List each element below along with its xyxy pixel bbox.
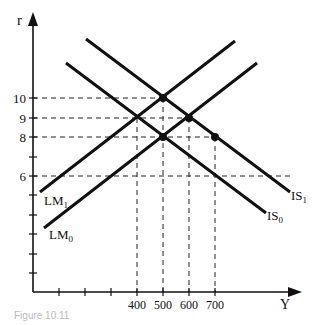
point-700-8 (211, 133, 219, 141)
curves (40, 39, 290, 228)
point-500-10 (159, 94, 167, 102)
r-tick-6: 6 (20, 169, 27, 184)
lm1-label: LM1 (44, 193, 68, 210)
figure-caption: Figure 10.11 (14, 310, 69, 321)
y-tick-500: 500 (154, 298, 172, 312)
r-axis-label: r (17, 12, 22, 28)
y-tick-700: 700 (206, 298, 224, 312)
y-tick-600: 600 (180, 298, 198, 312)
point-600-9 (185, 114, 193, 122)
r-tick-9: 9 (20, 111, 27, 126)
y-axis-arrow-icon (288, 287, 302, 297)
y-axis-label: Y (280, 297, 290, 312)
is-lm-diagram: r Y 10 9 8 6 400 500 600 700 IS1 IS0 LM1… (0, 0, 317, 325)
lm0-label: LM0 (49, 227, 74, 244)
axes (28, 12, 302, 297)
point-500-8 (159, 133, 167, 141)
r-axis-arrow-icon (28, 12, 38, 26)
guide-lines (33, 98, 290, 292)
y-tick-400: 400 (128, 298, 146, 312)
is1-label: IS1 (291, 188, 307, 205)
r-tick-10: 10 (13, 91, 26, 106)
is0-label: IS0 (267, 208, 284, 225)
r-tick-8: 8 (20, 130, 27, 145)
